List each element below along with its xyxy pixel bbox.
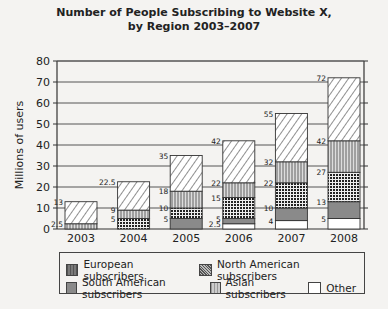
- y-tick-label: 10: [36, 202, 50, 215]
- bar-segment: [223, 224, 255, 229]
- x-tick-label: 2004: [120, 232, 148, 245]
- bar-segment: [223, 183, 255, 198]
- value-label: 2.5: [51, 220, 63, 229]
- asian-swatch-icon: [210, 282, 221, 294]
- value-label: 72: [316, 74, 326, 83]
- x-tick-label: 2003: [67, 232, 95, 245]
- bar-segment: [170, 156, 202, 192]
- value-label: 15: [211, 194, 221, 203]
- bar-segment: [328, 78, 360, 141]
- european-swatch-icon: [66, 264, 78, 276]
- legend-item-other: Other: [308, 282, 356, 294]
- bar-segment: [328, 202, 360, 219]
- value-label: 18: [159, 187, 169, 196]
- value-label: 13: [53, 198, 63, 207]
- bar-segment: [170, 219, 202, 230]
- y-tick-label: 50: [36, 118, 50, 131]
- value-label: 5: [111, 215, 116, 224]
- y-tick-label: 0: [43, 223, 50, 236]
- bar-segment: [275, 221, 307, 229]
- legend-item-asian: Asian subscribers: [210, 276, 300, 300]
- other-swatch-icon: [308, 282, 321, 294]
- legend: European subscribers North American subs…: [59, 252, 365, 294]
- bar-segment: [275, 162, 307, 183]
- bar-segment: [65, 202, 97, 224]
- value-label: 27: [316, 168, 326, 177]
- value-label: 9: [111, 206, 116, 215]
- y-tick-label: 70: [36, 76, 50, 89]
- value-label: 22: [264, 179, 274, 188]
- bar-segment: [275, 183, 307, 208]
- value-label: 42: [316, 137, 326, 146]
- x-tick-label: 2008: [330, 232, 358, 245]
- bar-segment: [65, 224, 97, 229]
- value-label: 35: [159, 152, 169, 161]
- y-tick-label: 30: [36, 160, 50, 173]
- value-label: 42: [211, 137, 221, 146]
- value-label: 55: [264, 110, 274, 119]
- value-label: 22: [211, 179, 221, 188]
- bar-segment: [275, 114, 307, 162]
- value-label: 22.5: [99, 178, 116, 187]
- y-tick-label: 40: [36, 139, 50, 152]
- x-tick-label: 2006: [225, 232, 253, 245]
- value-label: 10: [159, 204, 169, 213]
- stacked-bar-chart: 01020304050607080 20032.51320045922.5200…: [0, 0, 388, 250]
- y-axis-label: Millions of users: [13, 100, 26, 189]
- bar-segment: [223, 219, 255, 224]
- bar-segment: [328, 219, 360, 230]
- x-tick-label: 2007: [277, 232, 305, 245]
- bar-segment: [170, 191, 202, 208]
- bar-segment: [170, 208, 202, 219]
- north-american-swatch-icon: [199, 264, 211, 276]
- bar-segment: [118, 219, 150, 230]
- value-label: 4: [269, 217, 274, 226]
- bar-segment: [223, 141, 255, 183]
- value-label: 5: [163, 215, 168, 224]
- bar-segment: [223, 198, 255, 219]
- legend-item-south-american: South American subscribers: [66, 276, 202, 300]
- value-label: 5: [321, 215, 326, 224]
- bar-segment: [328, 141, 360, 173]
- bar-segment: [118, 210, 150, 218]
- bar-segment: [118, 182, 150, 210]
- bar-segment: [328, 172, 360, 201]
- x-tick-label: 2005: [172, 232, 200, 245]
- value-label: 13: [316, 198, 326, 207]
- y-tick-label: 20: [36, 181, 50, 194]
- value-label: 5: [216, 215, 221, 224]
- value-label: 32: [264, 158, 274, 167]
- south-american-swatch-icon: [66, 282, 77, 294]
- y-tick-label: 80: [36, 55, 50, 68]
- value-label: 10: [264, 204, 274, 213]
- bar-segment: [275, 208, 307, 221]
- y-tick-label: 60: [36, 97, 50, 110]
